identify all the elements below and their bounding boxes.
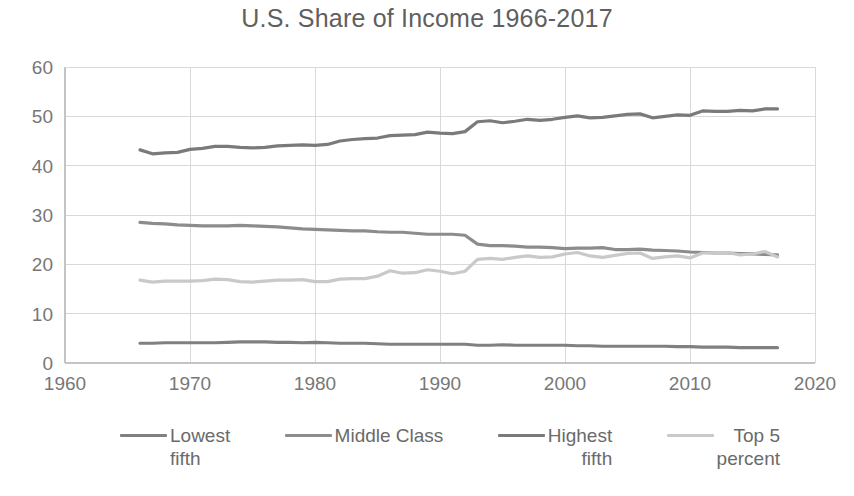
legend-swatch-icon [498,434,545,437]
y-axis-tick-labels: 0102030405060 [32,57,53,374]
legend-item-1[interactable]: Middle Class [285,424,444,447]
legend-item-2[interactable]: Highestfifth [498,424,612,470]
x-tick-2010: 2010 [669,373,711,394]
y-tick-50: 50 [32,106,53,127]
x-tick-1980: 1980 [294,373,336,394]
y-tick-10: 10 [32,304,53,325]
x-tick-1970: 1970 [169,373,211,394]
legend-item-0[interactable]: Lowestfifth [120,424,230,470]
x-axis-tick-labels: 1960197019801990200020102020 [44,373,836,394]
y-tick-30: 30 [32,205,53,226]
legend-swatch-icon [285,434,332,437]
x-tick-2020: 2020 [794,373,836,394]
series-line-lowest-fifth [140,342,778,348]
chart-plot-area: 0102030405060 19601970198019902000201020… [0,0,854,420]
x-tick-2000: 2000 [544,373,586,394]
legend-swatch-icon [667,434,714,437]
y-tick-40: 40 [32,156,53,177]
legend-label: Top 5percent [717,424,780,470]
y-tick-60: 60 [32,57,53,78]
series-line-highest-fifth [140,109,778,154]
legend-label: Highestfifth [548,424,612,470]
series-line-middle-class [140,222,778,255]
x-tick-1990: 1990 [419,373,461,394]
series-line-top-5-percent [140,252,778,283]
chart-legend: LowestfifthMiddle ClassHighestfifthTop 5… [120,424,780,470]
y-tick-0: 0 [42,353,53,374]
legend-label: Lowestfifth [170,424,230,470]
y-tick-20: 20 [32,254,53,275]
x-tick-1960: 1960 [44,373,86,394]
legend-swatch-icon [120,434,167,437]
legend-label: Middle Class [335,424,444,447]
chart-container: U.S. Share of Income 1966-2017 010203040… [0,0,854,496]
data-series-group [140,109,778,348]
legend-item-3[interactable]: Top 5percent [667,424,780,470]
